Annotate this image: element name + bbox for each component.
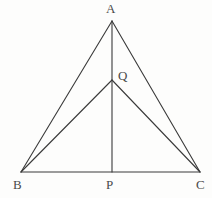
- segment-bq: [21, 80, 112, 172]
- vertex-label-c: C: [196, 178, 205, 191]
- geometry-figure: A Q B P C: [0, 0, 212, 198]
- segment-ab: [21, 21, 112, 172]
- vertex-label-b: B: [13, 178, 22, 191]
- vertex-label-q: Q: [118, 69, 128, 82]
- segment-ac: [112, 21, 200, 172]
- figure-canvas: [0, 0, 212, 198]
- segment-qc: [112, 80, 200, 172]
- vertex-label-p: P: [106, 178, 113, 191]
- vertex-label-a: A: [106, 2, 116, 15]
